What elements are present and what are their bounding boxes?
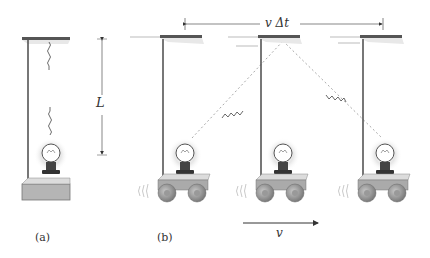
moving-clock-1 (130, 35, 210, 202)
photon-wave-up (49, 107, 52, 135)
light-bulb-icon (274, 144, 292, 162)
light-bulb-icon (176, 144, 194, 162)
length-label: L (96, 95, 105, 110)
panel-a-clock (22, 37, 70, 200)
stationary-base (22, 184, 70, 200)
photon-wave-down (48, 42, 51, 70)
panel-a-label: (a) (35, 231, 50, 244)
photon-wave-down (326, 95, 346, 102)
velocity-label: v (276, 226, 283, 240)
moving-clock-3 (330, 35, 410, 202)
light-clock-diagram (0, 0, 430, 258)
light-path (192, 41, 382, 138)
motion-lines (339, 184, 349, 198)
moving-clock-2 (228, 35, 308, 202)
light-bulb-icon (376, 144, 394, 162)
mirror (22, 37, 70, 40)
motion-lines (139, 184, 149, 198)
photon-wave-up (222, 111, 243, 118)
panel-b-label: (b) (157, 231, 173, 244)
motion-lines (237, 184, 247, 198)
light-bulb-icon (42, 144, 60, 162)
displacement-label: v Δt (263, 16, 291, 30)
